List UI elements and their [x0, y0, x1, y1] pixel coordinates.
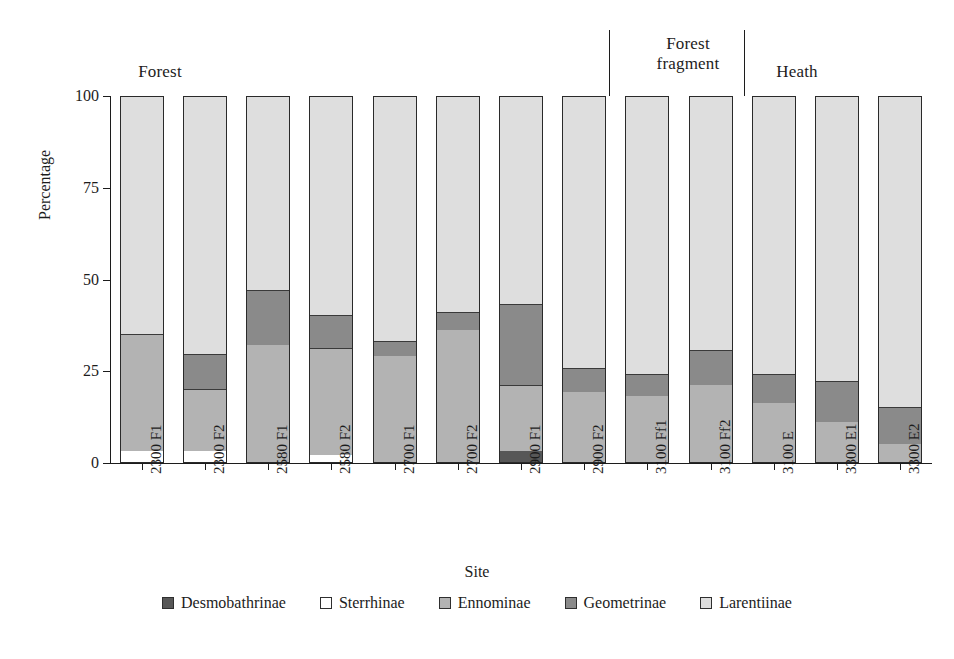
bar-3300-e1[interactable] [815, 96, 859, 463]
bar-segment-larentiinae [626, 96, 668, 374]
x-tick-mark [774, 463, 775, 470]
x-axis-label: 3100 Ff2 [717, 419, 734, 474]
legend-swatch-icon [162, 597, 174, 609]
x-tick-mark [900, 463, 901, 470]
group-label-fragment-line1: Forest [666, 34, 710, 53]
bar-2700-f2[interactable] [436, 96, 480, 463]
x-axis-label: 3300 E1 [843, 424, 860, 474]
x-tick-mark [711, 463, 712, 470]
x-axis-title: Site [0, 563, 954, 581]
bar-segment-geometrinae [437, 312, 479, 330]
x-tick-mark [268, 463, 269, 470]
x-axis-label: 2580 F2 [337, 424, 354, 474]
legend-swatch-icon [565, 597, 577, 609]
segment-divider [184, 354, 226, 355]
segment-divider [500, 304, 542, 305]
y-tick-mark [103, 463, 110, 464]
bar-segment-larentiinae [437, 96, 479, 312]
x-axis-label: 2700 F2 [464, 424, 481, 474]
legend-swatch-icon [700, 597, 712, 609]
bar-segment-larentiinae [879, 96, 921, 407]
bar-segment-larentiinae [816, 96, 858, 381]
bar-segment-larentiinae [184, 96, 226, 354]
legend-item-ennominae[interactable]: Ennominae [439, 594, 531, 612]
x-tick-mark [647, 463, 648, 470]
x-axis-label: 2900 F2 [590, 424, 607, 474]
group-header-band: Forest Forest fragment Heath [0, 0, 954, 96]
chart-legend: DesmobathrinaeSterrhinaeEnnominaeGeometr… [0, 594, 954, 612]
y-tick-mark [103, 280, 110, 281]
bar-3100-e[interactable] [752, 96, 796, 463]
group-label-fragment-line2: fragment [657, 54, 720, 73]
bar-segment-geometrinae [310, 315, 352, 348]
bar-segment-larentiinae [310, 96, 352, 315]
legend-item-geometrinae[interactable]: Geometrinae [565, 594, 667, 612]
x-tick-mark [521, 463, 522, 470]
bar-3100-ff1[interactable] [625, 96, 669, 463]
group-label-forest: Forest [100, 62, 220, 82]
bar-2300-f1[interactable] [120, 96, 164, 463]
x-axis-label: 2300 F2 [211, 424, 228, 474]
y-tick-label: 100 [75, 87, 99, 105]
y-tick-mark [103, 188, 110, 189]
legend-label: Larentiinae [719, 594, 792, 612]
segment-divider [310, 348, 352, 349]
x-tick-mark [584, 463, 585, 470]
y-tick-label: 0 [91, 454, 99, 472]
bar-segment-geometrinae [374, 341, 416, 356]
bar-2580-f2[interactable] [309, 96, 353, 463]
bar-segment-larentiinae [247, 96, 289, 290]
y-axis-line [110, 96, 111, 464]
x-axis-label: 2900 F1 [527, 424, 544, 474]
bar-3100-ff2[interactable] [689, 96, 733, 463]
x-axis-label: 2700 F1 [401, 424, 418, 474]
bar-2580-f1[interactable] [246, 96, 290, 463]
bar-2700-f1[interactable] [373, 96, 417, 463]
legend-item-sterrhinae[interactable]: Sterrhinae [320, 594, 405, 612]
legend-label: Geometrinae [584, 594, 667, 612]
y-tick-mark [103, 96, 110, 97]
legend-swatch-icon [320, 597, 332, 609]
x-axis-label: 3100 Ff1 [653, 419, 670, 474]
legend-item-larentiinae[interactable]: Larentiinae [700, 594, 792, 612]
segment-divider [816, 381, 858, 382]
segment-divider [753, 374, 795, 375]
bar-2900-f1[interactable] [499, 96, 543, 463]
segment-divider [437, 312, 479, 313]
x-tick-mark [142, 463, 143, 470]
bar-segment-geometrinae [247, 290, 289, 345]
bar-segment-larentiinae [374, 96, 416, 341]
segment-divider [374, 341, 416, 342]
x-tick-mark [458, 463, 459, 470]
x-axis-label: 2300 F1 [148, 424, 165, 474]
bar-2300-f2[interactable] [183, 96, 227, 463]
group-divider-forest-fragment [609, 30, 610, 96]
bar-segment-geometrinae [626, 374, 668, 396]
stacked-bar-chart-figure: Forest Forest fragment Heath Percentage … [0, 0, 954, 659]
legend-item-desmobathrinae[interactable]: Desmobathrinae [162, 594, 286, 612]
y-tick-label: 25 [83, 362, 99, 380]
bar-2900-f2[interactable] [562, 96, 606, 463]
group-divider-fragment-heath [744, 30, 745, 96]
x-axis-label: 3300 E2 [906, 424, 923, 474]
legend-label: Desmobathrinae [181, 594, 286, 612]
legend-swatch-icon [439, 597, 451, 609]
segment-divider [563, 368, 605, 369]
bar-segment-geometrinae [816, 381, 858, 421]
bar-segment-geometrinae [184, 354, 226, 389]
segment-divider [690, 350, 732, 351]
segment-divider [310, 315, 352, 316]
bar-3300-e2[interactable] [878, 96, 922, 463]
group-label-heath: Heath [752, 62, 842, 82]
plot-area: 100 75 50 25 0 [110, 96, 932, 463]
legend-label: Ennominae [458, 594, 531, 612]
y-axis-title: Percentage [36, 150, 54, 220]
group-label-forest-fragment: Forest fragment [620, 34, 756, 74]
bar-segment-geometrinae [563, 368, 605, 392]
x-axis-label: 3100 E [780, 431, 797, 474]
bar-segment-larentiinae [753, 96, 795, 374]
x-tick-mark [837, 463, 838, 470]
bar-segment-geometrinae [690, 350, 732, 385]
segment-divider [626, 374, 668, 375]
bar-segment-geometrinae [500, 304, 542, 385]
